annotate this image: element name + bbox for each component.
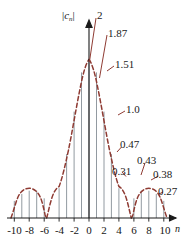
value-annotation-1-87: 1.87 [108, 28, 127, 39]
value-annotation-1-51: 1.51 [115, 59, 134, 70]
leader-line-151 [107, 66, 114, 71]
leader-line-187 [100, 35, 108, 78]
figure-container: |cn| n -10 -8 -6 -4 -2 0 2 4 6 8 10 2 1.… [0, 0, 189, 239]
x-tick-label: 10 [156, 225, 174, 236]
x-axis-variable-label: n [175, 224, 180, 234]
value-annotation-0-31: 0.31 [112, 166, 131, 177]
x-tick-label: 2 [98, 225, 110, 236]
x-tick-label: -2 [66, 225, 83, 236]
x-tick-label: 6 [128, 225, 140, 236]
x-tick-label: 4 [113, 225, 125, 236]
envelope-left-inner-lobe [47, 60, 89, 218]
value-annotation-0-27: 0.27 [158, 186, 177, 197]
value-annotation-0-43: 0.43 [137, 155, 156, 166]
y-axis-label: |cn| [62, 10, 75, 23]
value-annotation-1-0: 1.0 [126, 104, 140, 115]
x-tick-label: 8 [143, 225, 155, 236]
x-axis-arrow [170, 215, 177, 221]
value-annotation-0-38: 0.38 [153, 169, 172, 180]
value-annotation-2: 2 [97, 10, 103, 21]
x-tick-label: 0 [83, 225, 95, 236]
y-axis-arrow [86, 20, 92, 28]
spectrum-plot [0, 0, 189, 239]
leader-line-10 [118, 111, 125, 115]
value-annotation-0-47: 0.47 [120, 139, 139, 150]
